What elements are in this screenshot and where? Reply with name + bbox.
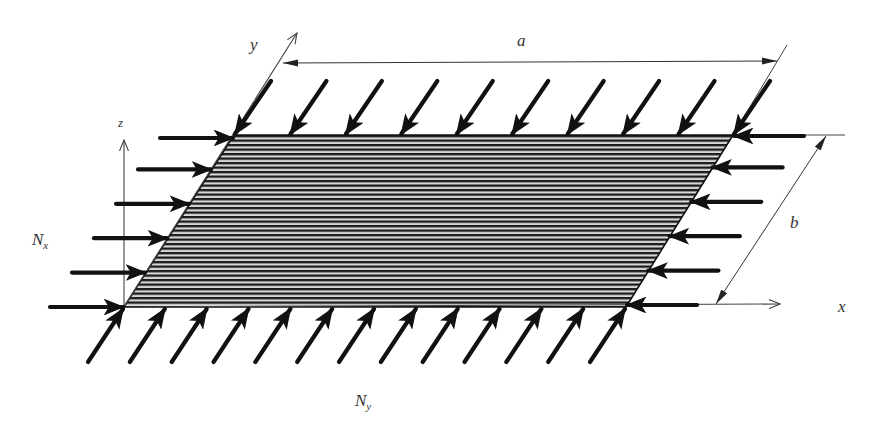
ny-top-arrows — [235, 81, 770, 134]
ny-arrow — [506, 309, 541, 362]
ny-arrow — [734, 81, 770, 134]
x-axis-label: x — [837, 297, 846, 316]
ny-arrow — [297, 309, 332, 362]
ny-arrow — [172, 309, 207, 362]
ny-arrow — [214, 309, 249, 362]
nx-load-label: Nx — [31, 230, 48, 251]
ny-arrow — [679, 81, 715, 134]
plate — [124, 135, 733, 307]
dimension-b-label: b — [790, 213, 799, 232]
ny-arrow — [88, 309, 123, 362]
ny-arrow — [255, 309, 290, 362]
dimension-a-line — [283, 61, 777, 63]
ny-load-label: Ny — [354, 391, 371, 412]
z-axis-label: z — [117, 115, 123, 130]
plate-diagram: x y z a b Nx Ny — [0, 0, 880, 435]
dimension-b-line — [716, 136, 826, 304]
ny-bottom-arrows — [88, 309, 625, 362]
ny-arrow — [590, 309, 625, 362]
ny-arrow — [381, 309, 416, 362]
plate-surface — [124, 135, 733, 307]
ny-label-subscript: y — [365, 400, 371, 412]
ny-arrow — [548, 309, 583, 362]
ny-arrow — [290, 81, 326, 134]
ny-arrow — [457, 81, 493, 134]
ny-arrow — [568, 81, 604, 134]
ny-arrow — [623, 81, 659, 134]
ny-arrow — [512, 81, 548, 134]
ny-arrow — [130, 309, 165, 362]
ny-arrow — [346, 81, 382, 134]
ny-arrow — [339, 309, 374, 362]
ny-arrow — [465, 309, 500, 362]
diagram-canvas: x y z a b Nx Ny — [0, 0, 880, 435]
dimension-a-label: a — [517, 31, 526, 50]
ny-arrow — [401, 81, 437, 134]
ny-arrow — [423, 309, 458, 362]
y-axis-label: y — [248, 35, 258, 54]
ny-arrow — [235, 81, 271, 134]
nx-label-subscript: x — [42, 239, 48, 251]
